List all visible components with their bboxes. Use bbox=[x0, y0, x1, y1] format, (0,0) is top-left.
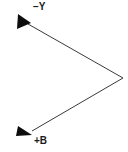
axis-label-minus-y: −Y bbox=[33, 2, 46, 12]
axis-label-plus-b: +B bbox=[34, 136, 47, 146]
vector-diagram-canvas bbox=[0, 0, 128, 152]
arrowhead-minus-y-icon bbox=[17, 14, 31, 29]
ray-line-plus-b bbox=[32, 78, 123, 131]
ray-line-minus-y bbox=[28, 24, 123, 78]
arrowhead-plus-b-icon bbox=[16, 126, 32, 136]
vector-diagram: −Y +B bbox=[0, 0, 128, 152]
